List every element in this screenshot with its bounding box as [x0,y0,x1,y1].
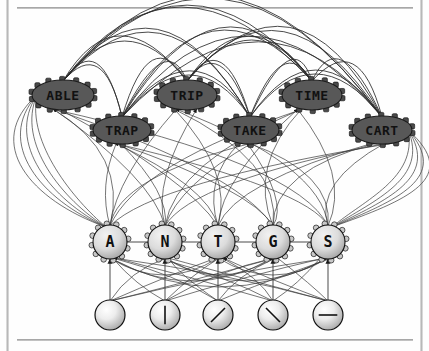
word-label: TAKE [233,123,266,138]
letter-label: A [105,233,114,251]
feature-layer-nodes [95,300,343,330]
feature-node-feature-backslash[interactable] [258,300,288,330]
letter-node-letter-g[interactable]: G [252,221,294,263]
letter-node-letter-s[interactable]: S [307,221,349,263]
word-node-cart[interactable]: CART [349,112,415,147]
interactive-activation-figure: ABLETRAPTRIPTAKETIMECART ANTGS [0,0,429,351]
letter-label: T [213,233,222,251]
word-node-trap[interactable]: TRAP [90,112,154,147]
word-label: TRIP [170,88,203,103]
feature-node-feature-blank[interactable] [95,300,125,330]
network-canvas: ABLETRAPTRIPTAKETIMECART ANTGS [0,0,429,351]
word-label: CART [365,123,398,138]
letter-node-letter-n[interactable]: N [144,221,186,263]
word-label: TRAP [105,123,138,138]
feature-node-feature-vertical[interactable] [150,300,180,330]
feature-circle[interactable] [95,300,125,330]
word-node-take[interactable]: TAKE [218,112,282,147]
letter-label: G [268,233,277,251]
word-label: TIME [295,88,328,103]
word-label: ABLE [46,88,79,103]
letter-node-letter-a[interactable]: A [89,221,131,263]
feature-node-feature-slash[interactable] [203,300,233,330]
letter-node-letter-t[interactable]: T [197,221,239,263]
feature-node-feature-horizontal[interactable] [313,300,343,330]
word-node-time[interactable]: TIME [279,76,345,113]
letter-label: S [323,233,332,251]
feature-to-letter-edges [110,258,332,301]
letter-label: N [160,233,169,251]
word-node-trip[interactable]: TRIP [154,76,220,113]
word-node-able[interactable]: ABLE [29,76,97,113]
